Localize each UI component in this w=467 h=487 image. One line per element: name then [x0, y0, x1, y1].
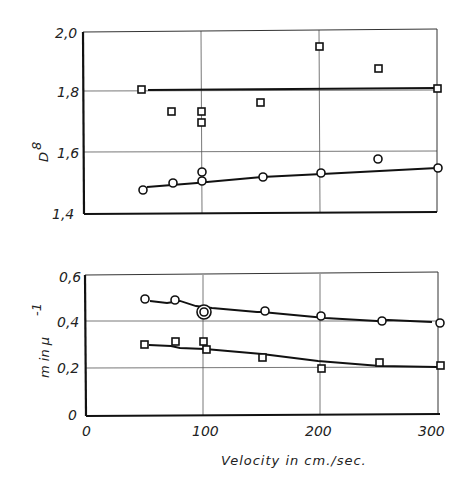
data-point	[172, 338, 179, 345]
bottom-y-axis-label: m in µ -1	[29, 303, 52, 378]
square-fit-line	[148, 88, 437, 90]
figure: 1,4 1,6 1,8 2,0 D 8	[0, 0, 467, 487]
y-tick-label: 1,4	[52, 206, 74, 222]
data-point	[141, 295, 149, 303]
circle-markers	[141, 295, 444, 327]
y-label-sup: 8	[29, 142, 44, 150]
y-label-sup: -1	[29, 303, 44, 316]
y-tick-label: 2,0	[55, 25, 77, 41]
data-point	[317, 312, 325, 320]
y-axis	[83, 32, 84, 214]
data-point	[198, 119, 205, 126]
circle-fit-line	[147, 168, 437, 187]
gridline-0.2	[85, 367, 438, 368]
y-tick-label: 0,6	[59, 269, 81, 285]
y-label-main: D	[36, 152, 51, 162]
data-point	[139, 186, 147, 194]
bottom-panel: 0 0,2 0,4 0,6 0 100 200 300 m in µ -1 Ve…	[29, 269, 445, 468]
x-axis	[84, 212, 437, 214]
data-point	[317, 169, 325, 177]
top-frame-border	[85, 272, 438, 275]
data-point	[198, 177, 206, 185]
data-point	[374, 155, 382, 163]
data-point	[318, 365, 325, 372]
y-tick-label: 0,4	[57, 314, 79, 330]
data-point	[434, 85, 441, 92]
data-point	[316, 43, 323, 50]
x-tick-label: 100	[192, 423, 219, 439]
top-panel: 1,4 1,6 1,8 2,0 D 8	[29, 25, 442, 222]
x-tick-label: 200	[305, 423, 332, 439]
data-point	[378, 317, 386, 325]
data-point	[259, 354, 266, 361]
x-tick-label: 0	[82, 423, 91, 439]
data-point	[261, 307, 269, 315]
data-point	[376, 359, 383, 366]
data-point	[375, 65, 382, 72]
highlighted-data-point	[200, 308, 208, 316]
data-point	[171, 296, 179, 304]
y-axis	[85, 275, 86, 416]
top-frame-border	[83, 29, 437, 32]
circle-fit-line	[150, 301, 432, 322]
data-point	[203, 346, 210, 353]
top-y-axis-label: D 8	[29, 142, 51, 162]
y-tick-label: 0	[68, 407, 77, 423]
x-axis	[86, 414, 440, 416]
data-point	[257, 99, 264, 106]
data-point	[437, 362, 444, 369]
x-tick-label: 300	[418, 423, 445, 439]
data-point	[168, 108, 175, 115]
data-point	[198, 168, 206, 176]
data-point	[434, 164, 442, 172]
gridline-1.6	[83, 151, 437, 152]
data-point	[259, 173, 267, 181]
gridline-x200	[319, 30, 320, 213]
data-point	[141, 341, 148, 348]
data-point	[436, 319, 444, 327]
data-point	[200, 338, 207, 345]
circle-markers	[139, 155, 442, 194]
y-tick-label: 1,8	[57, 84, 79, 100]
square-fit-line	[149, 345, 437, 367]
data-point	[138, 86, 145, 93]
y-tick-label: 0,2	[57, 360, 79, 376]
x-axis-title: Velocity in cm./sec.	[221, 453, 367, 468]
data-point	[198, 108, 205, 115]
y-label-main: m in µ	[37, 337, 52, 378]
square-markers	[138, 43, 441, 126]
y-tick-label: 1,6	[57, 145, 79, 161]
gridline-1.8	[83, 90, 437, 91]
data-point	[169, 179, 177, 187]
